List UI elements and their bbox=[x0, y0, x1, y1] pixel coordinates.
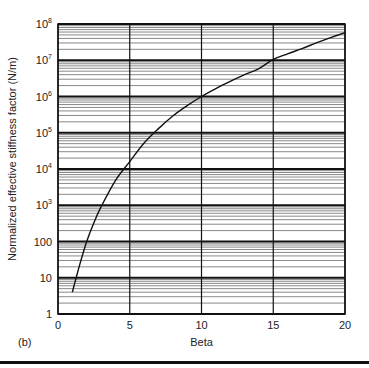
y-tick-label: 107 bbox=[36, 53, 52, 66]
y-tick-label: 105 bbox=[36, 126, 52, 139]
x-tick-labels: 05101520 bbox=[55, 319, 351, 331]
y-tick-labels: 110100103104105106107108 bbox=[34, 17, 52, 320]
y-tick-label: 108 bbox=[36, 17, 52, 30]
y-tick-label: 10 bbox=[40, 272, 52, 284]
x-axis-label: Beta bbox=[190, 336, 214, 348]
y-tick-label: 106 bbox=[36, 90, 52, 103]
stiffness-chart: 110100103104105106107108 05101520 Beta N… bbox=[0, 0, 369, 368]
x-tick-label: 15 bbox=[267, 319, 279, 331]
series-layer bbox=[72, 33, 345, 293]
panel-label: (b) bbox=[18, 336, 31, 348]
y-tick-label: 104 bbox=[36, 162, 52, 175]
bottom-rule bbox=[0, 361, 369, 364]
x-tick-label: 5 bbox=[127, 319, 133, 331]
major-gridlines bbox=[58, 24, 345, 314]
y-tick-label: 100 bbox=[34, 236, 52, 248]
series-line bbox=[72, 33, 345, 293]
x-tick-label: 10 bbox=[195, 319, 207, 331]
y-axis-label: Normalized effective stiffness factor (N… bbox=[6, 57, 18, 261]
y-tick-label: 1 bbox=[46, 308, 52, 320]
y-tick-label: 103 bbox=[36, 198, 52, 211]
x-tick-label: 0 bbox=[55, 319, 61, 331]
x-tick-label: 20 bbox=[339, 319, 351, 331]
